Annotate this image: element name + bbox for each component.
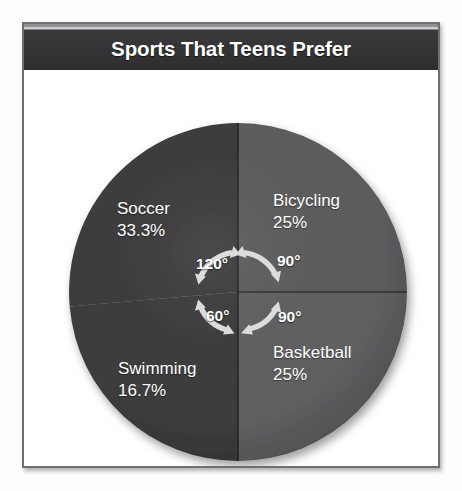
pie-label-bicycling-name: Bicycling (273, 191, 340, 210)
angle-label-upper-left: 120° (196, 255, 228, 273)
page-title: Sports That Teens Prefer (111, 34, 351, 60)
pie-chart-figure: Sports That Teens Prefer (0, 0, 462, 491)
angle-label-lower-right: 90° (278, 308, 301, 326)
pie-label-soccer-name: Soccer (117, 199, 170, 218)
pie-label-bicycling: Bicycling 25% (273, 190, 340, 234)
plot-area: Soccer 33.3% Bicycling 25% Basketball 25… (24, 70, 438, 466)
pie-label-swimming-name: Swimming (118, 359, 196, 378)
pie-shading (69, 123, 407, 461)
pie-label-basketball-value: 25% (273, 364, 351, 386)
pie-slices (69, 123, 407, 461)
chart-frame: Sports That Teens Prefer (22, 22, 440, 468)
pie-label-bicycling-value: 25% (273, 212, 340, 234)
pie-label-swimming: Swimming 16.7% (118, 358, 196, 402)
pie-label-soccer-value: 33.3% (117, 220, 170, 242)
chart-title-bar: Sports That Teens Prefer (24, 24, 438, 70)
pie-label-soccer: Soccer 33.3% (117, 198, 170, 242)
pie-label-basketball-name: Basketball (273, 343, 351, 362)
pie-label-swimming-value: 16.7% (118, 380, 196, 402)
pie-label-basketball: Basketball 25% (273, 342, 351, 386)
pie-svg (24, 70, 438, 466)
angle-label-upper-right: 90° (277, 252, 300, 270)
angle-label-lower-left: 60° (206, 307, 229, 325)
